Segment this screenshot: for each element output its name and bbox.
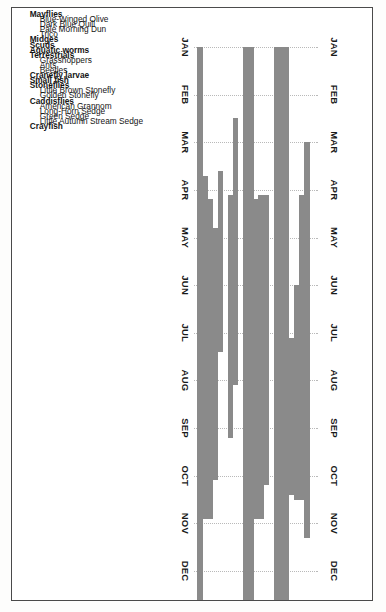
month-tick-jan: JAN (329, 25, 340, 69)
scanned-page: JANFEBMARAPRMAYJUNJULAUGSEPOCTNOVDEC JAN… (0, 0, 386, 612)
bar-dark-blue-quill (299, 195, 305, 500)
month-tick-jul: JUL (329, 311, 340, 355)
month-tick-jun: JUN (329, 263, 340, 307)
month-tick-aug: AUG (329, 358, 340, 402)
bar-scuds (279, 47, 285, 600)
month-tick-sep: SEP (180, 406, 191, 450)
month-tick-apr: APR (180, 168, 191, 212)
month-tick-nov: NOV (329, 501, 340, 545)
month-tick-jun: JUN (180, 263, 191, 307)
month-axis-bottom: JANFEBMARAPRMAYJUNJULAUGSEPOCTNOVDEC (171, 11, 191, 597)
bar-little-brown-stonefly (233, 118, 239, 385)
month-tick-jul: JUL (180, 311, 191, 355)
month-tick-feb: FEB (329, 73, 340, 117)
bar-pale-morning-dun (294, 285, 300, 499)
bar-midges (284, 47, 290, 600)
bar-trico (289, 338, 295, 495)
chart-frame: JANFEBMARAPRMAYJUNJULAUGSEPOCTNOVDEC JAN… (11, 7, 373, 601)
bar-long-horn-sedge (212, 228, 218, 480)
month-tick-apr: APR (329, 168, 340, 212)
bar-small-fish (243, 47, 249, 600)
month-tick-may: MAY (180, 216, 191, 260)
month-tick-mar: MAR (329, 120, 340, 164)
bar-little-autumn-stream-sedge (202, 176, 208, 519)
month-tick-mar: MAR (180, 120, 191, 164)
month-tick-feb: FEB (180, 73, 191, 117)
month-tick-aug: AUG (180, 358, 191, 402)
bar-beetles (253, 199, 259, 518)
bar-green-sedge (207, 199, 213, 518)
bar-grasshoppers (263, 195, 269, 486)
bar-ants (258, 195, 264, 519)
month-tick-jan: JAN (180, 25, 191, 69)
category-labels: MayfliesBlue-Winged OliveDark Blue Quill… (24, 11, 174, 597)
bar-series (194, 11, 318, 597)
category-label-crayfish: Crayfish (30, 122, 63, 131)
month-tick-dec: DEC (329, 549, 340, 593)
month-axis-top: JANFEBMARAPRMAYJUNJULAUGSEPOCTNOVDEC (320, 11, 340, 597)
bar-crayfish (197, 47, 203, 600)
month-tick-dec: DEC (180, 549, 191, 593)
month-tick-may: MAY (329, 216, 340, 260)
bar-golden-stonefly (228, 195, 234, 438)
month-tick-oct: OCT (329, 454, 340, 498)
month-tick-sep: SEP (329, 406, 340, 450)
bar-aquatic-worms (274, 47, 280, 600)
month-tick-oct: OCT (180, 454, 191, 498)
bar-american-grannom (218, 171, 224, 352)
hatch-chart: JANFEBMARAPRMAYJUNJULAUGSEPOCTNOVDEC JAN… (14, 11, 370, 597)
month-tick-nov: NOV (180, 501, 191, 545)
plot-area: JANFEBMARAPRMAYJUNJULAUGSEPOCTNOVDEC JAN… (223, 11, 343, 597)
bar-cranefly-larvae (248, 47, 254, 600)
bar-blue-winged-olive (304, 142, 310, 537)
